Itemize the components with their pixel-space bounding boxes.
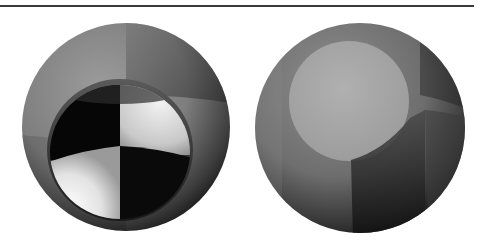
left-sphere	[20, 20, 240, 240]
figure	[0, 0, 491, 251]
right-sphere	[255, 20, 470, 240]
